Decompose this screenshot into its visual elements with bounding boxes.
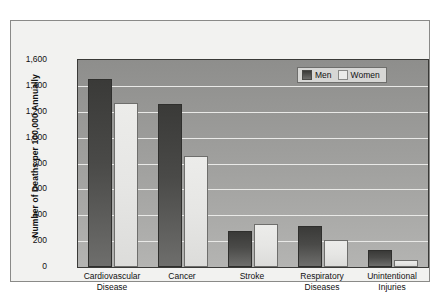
x-tick-label-line: Injuries	[357, 282, 427, 293]
x-tick-label-line: Cancer	[147, 271, 217, 282]
y-tick-label: 1,200	[1, 106, 47, 116]
bar-men-2	[228, 231, 252, 267]
bar-women-1	[184, 156, 208, 267]
x-tick-label-line: Respiratory	[287, 271, 357, 282]
bar-men-3	[298, 226, 322, 267]
bar-men-4	[368, 250, 392, 267]
y-tick-label: 1,400	[1, 80, 47, 90]
legend-item-women: Women	[338, 70, 380, 80]
legend-item-men: Men	[302, 70, 332, 80]
x-tick-label: CardiovascularDisease	[77, 271, 147, 293]
y-tick-label: 400	[1, 209, 47, 219]
plot-area	[77, 59, 429, 268]
bar-women-2	[254, 224, 278, 267]
bar-group	[288, 60, 358, 267]
legend-label: Men	[315, 70, 332, 80]
bar-men-0	[88, 79, 112, 267]
chart-figure: Number of Deaths per 100,000 Annually 02…	[0, 0, 444, 299]
bar-men-1	[158, 104, 182, 267]
y-tick-label: 600	[1, 183, 47, 193]
bar-women-3	[324, 240, 348, 267]
x-tick-label: Cancer	[147, 271, 217, 282]
x-tick-label: UnintentionalInjuries	[357, 271, 427, 293]
x-tick-label: Stroke	[217, 271, 287, 282]
x-tick-label-line: Stroke	[217, 271, 287, 282]
legend-label: Women	[351, 70, 380, 80]
legend-swatch-women-icon	[338, 70, 348, 80]
bar-group	[148, 60, 218, 267]
y-tick-label: 1,600	[1, 54, 47, 64]
x-tick-label-line: Disease	[77, 282, 147, 293]
bar-group	[358, 60, 428, 267]
x-tick-label-line: Diseases	[287, 282, 357, 293]
y-tick-label: 800	[1, 158, 47, 168]
x-tick-label: RespiratoryDiseases	[287, 271, 357, 293]
chart-card: Number of Deaths per 100,000 Annually 02…	[10, 20, 430, 282]
bar-group	[218, 60, 288, 267]
chart-legend: MenWomen	[297, 67, 387, 83]
y-tick-label: 1,000	[1, 132, 47, 142]
y-tick-label: 0	[1, 261, 47, 271]
x-tick-label-line: Cardiovascular	[77, 271, 147, 282]
legend-swatch-men-icon	[302, 70, 312, 80]
bar-group	[78, 60, 148, 267]
y-tick-label: 200	[1, 235, 47, 245]
bar-women-0	[114, 103, 138, 267]
bar-women-4	[394, 260, 418, 267]
x-tick-label-line: Unintentional	[357, 271, 427, 282]
